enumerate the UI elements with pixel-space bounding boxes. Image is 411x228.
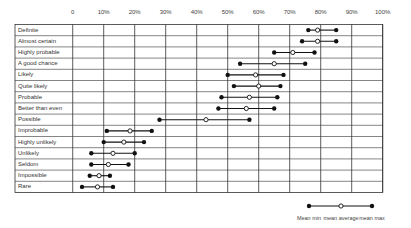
mean-min-dot	[219, 95, 223, 99]
x-tick-label: 90%	[346, 9, 358, 15]
category-label: Highly probable	[15, 47, 73, 58]
mean-max-dot	[111, 185, 115, 189]
mean-average-marker	[111, 151, 115, 155]
mean-min-dot	[80, 185, 84, 189]
category-label: Seldom	[15, 159, 73, 170]
category-label: Probable	[15, 92, 73, 103]
category-label: Impossible	[15, 170, 73, 181]
x-tick-label: 60%	[253, 9, 265, 15]
category-label: A good chance	[15, 58, 73, 69]
mean-min-dot	[102, 140, 106, 144]
mean-max-dot	[275, 95, 279, 99]
mean-average-marker	[291, 50, 295, 54]
legend-label: mean average	[323, 215, 358, 221]
mean-max-dot	[334, 39, 338, 43]
legend-max-dot	[370, 204, 374, 208]
mean-min-dot	[232, 84, 236, 88]
mean-average-marker	[254, 73, 258, 77]
x-tick-label: 40%	[191, 9, 203, 15]
mean-min-dot	[300, 39, 304, 43]
mean-min-dot	[226, 73, 230, 77]
x-tick-label: 20%	[129, 9, 141, 15]
mean-average-marker	[128, 129, 132, 133]
legend-min-dot	[307, 204, 311, 208]
mean-average-marker	[247, 95, 251, 99]
mean-average-marker	[97, 174, 101, 178]
x-tick-label: 0	[71, 9, 74, 15]
mean-min-dot	[88, 174, 92, 178]
mean-max-dot	[334, 28, 338, 32]
legend-average-marker	[339, 204, 343, 208]
legend-label: mean max	[359, 215, 385, 221]
category-label: Quite likely	[15, 81, 73, 92]
mean-min-dot	[306, 28, 310, 32]
x-tick-label: 100%	[375, 9, 390, 15]
mean-min-dot	[105, 129, 109, 133]
mean-average-marker	[95, 185, 99, 189]
legend-label: Mean min	[297, 215, 321, 221]
category-label: Likely	[15, 69, 73, 80]
mean-min-dot	[216, 106, 220, 110]
mean-average-marker	[122, 140, 126, 144]
mean-max-dot	[281, 73, 285, 77]
mean-max-dot	[247, 118, 251, 122]
mean-average-marker	[106, 162, 110, 166]
mean-max-dot	[133, 151, 137, 155]
x-tick-label: 10%	[98, 9, 110, 15]
mean-average-marker	[316, 28, 320, 32]
mean-min-dot	[272, 50, 276, 54]
x-tick-label: 80%	[315, 9, 327, 15]
category-label: Better than even	[15, 103, 73, 114]
mean-min-dot	[89, 151, 93, 155]
mean-max-dot	[303, 62, 307, 66]
mean-average-marker	[316, 39, 320, 43]
category-label: Improbable	[15, 125, 73, 136]
mean-max-dot	[108, 174, 112, 178]
mean-min-dot	[89, 162, 93, 166]
mean-average-marker	[272, 62, 276, 66]
category-label: Almost certain	[15, 36, 73, 47]
mean-min-dot	[238, 62, 242, 66]
mean-max-dot	[150, 129, 154, 133]
probability-range-chart: 010%20%30%40%50%60%70%80%90%100% Definit…	[0, 0, 411, 228]
mean-max-dot	[312, 50, 316, 54]
category-label: Definite	[15, 25, 73, 36]
x-tick-label: 30%	[160, 9, 172, 15]
mean-max-dot	[278, 84, 282, 88]
mean-max-dot	[126, 162, 130, 166]
mean-average-marker	[257, 84, 261, 88]
mean-average-marker	[204, 118, 208, 122]
mean-min-dot	[157, 118, 161, 122]
x-tick-label: 50%	[222, 9, 234, 15]
x-tick-label: 70%	[284, 9, 296, 15]
mean-max-dot	[272, 106, 276, 110]
category-label: Possible	[15, 114, 73, 125]
category-label: Unlikely	[15, 148, 73, 159]
category-label: Rare	[15, 181, 73, 192]
mean-max-dot	[142, 140, 146, 144]
mean-average-marker	[244, 106, 248, 110]
category-label: Highly unlikely	[15, 137, 73, 148]
